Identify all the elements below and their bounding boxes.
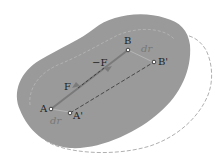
label-A: A bbox=[40, 104, 47, 114]
label-negative-F: −F bbox=[92, 58, 107, 68]
rigid-body-diagram: A B A' B' F −F dr dr bbox=[0, 0, 224, 164]
label-B-prime: B' bbox=[158, 57, 168, 67]
point-A bbox=[49, 107, 53, 111]
label-dr-A: dr bbox=[50, 116, 61, 126]
point-A-prime bbox=[68, 111, 72, 115]
rigid-body-shape bbox=[17, 14, 190, 148]
label-F: F bbox=[64, 82, 71, 92]
label-B: B bbox=[124, 36, 131, 46]
point-B bbox=[126, 48, 130, 52]
diagram-canvas bbox=[0, 0, 224, 164]
point-B-prime bbox=[152, 60, 156, 64]
label-dr-B: dr bbox=[141, 44, 152, 54]
label-A-prime: A' bbox=[73, 111, 83, 121]
